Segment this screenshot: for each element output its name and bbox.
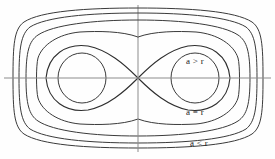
label-a-less-than-r: a < r <box>190 139 208 148</box>
label-a-greater-than-r: a > r <box>186 57 204 66</box>
cassini-ovals-plot <box>0 0 275 159</box>
label-a-equal-r: a = r <box>186 108 204 117</box>
cassini-ovals-figure: a > r a = r a < r <box>0 0 275 159</box>
